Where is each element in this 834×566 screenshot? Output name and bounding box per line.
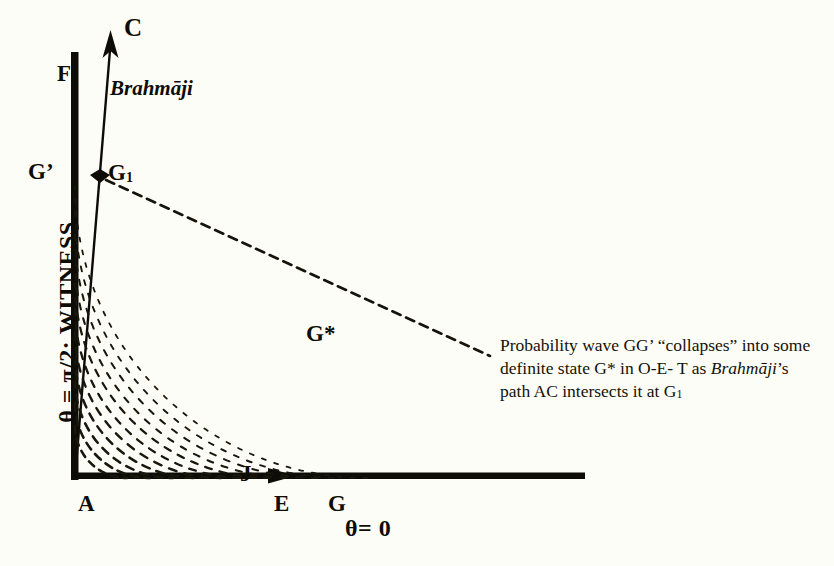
caption-line-4-sub: 1	[676, 387, 682, 401]
leader-line-G1-to-caption	[106, 180, 490, 356]
caption-text: Probability wave GG’ “collapses” into so…	[500, 334, 818, 403]
caption-line-3a: T as	[677, 358, 711, 378]
diagram-canvas: C F Brahmāji G’ G1 G* A J E G θ= 0 θ = π…	[0, 0, 834, 566]
label-g1-subscript: 1	[126, 170, 133, 185]
axis-label-theta-zero: θ= 0	[345, 516, 391, 540]
label-brahmaji-path: Brahmāji	[110, 78, 193, 99]
label-point-C: C	[124, 15, 142, 40]
label-point-A: A	[78, 492, 95, 515]
label-point-G: G	[328, 492, 346, 515]
caption-brahmaji-italic: Brahmāji	[711, 358, 777, 378]
axis-label-witness: θ = π/2: WITNESS	[55, 182, 79, 462]
caption-line-4a: it at G	[633, 381, 677, 401]
label-point-F: F	[57, 62, 71, 85]
label-point-E: E	[274, 492, 289, 515]
label-point-g1: G1	[108, 161, 133, 185]
label-point-J: J	[240, 462, 252, 485]
caption-line-1: Probability wave GG’ “collapses”	[500, 335, 737, 355]
label-point-g-prime: G’	[28, 160, 54, 183]
label-g1-base: G	[108, 160, 126, 185]
label-point-g-star: G*	[306, 322, 335, 345]
